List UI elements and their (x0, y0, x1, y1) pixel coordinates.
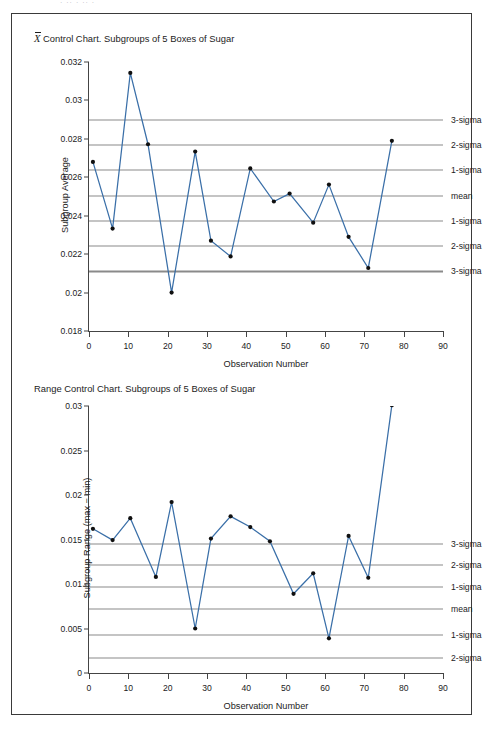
xbar-y-tick-label: 0.022 (60, 249, 82, 259)
figure-page: · ·· · ·· · X Control Chart. Subgroups o… (0, 0, 484, 729)
xbar-chart-title: X Control Chart. Subgroups of 5 Boxes of… (34, 33, 234, 44)
xbar-control-limit-label: 1-sigma (451, 216, 482, 226)
range-y-tick-label: 0.025 (60, 446, 82, 456)
range-x-tick-mark (89, 673, 90, 679)
range-chart-title: Range Control Chart. Subgroups of 5 Boxe… (34, 383, 255, 394)
xbar-control-chart-panel: X Control Chart. Subgroups of 5 Boxes of… (12, 14, 473, 366)
range-x-tick-mark (286, 673, 287, 679)
range-control-chart-panel: Range Control Chart. Subgroups of 5 Boxe… (12, 366, 473, 716)
xbar-plot-area: Subgroup Average Observation Number 0.01… (88, 62, 443, 332)
range-data-point (311, 571, 315, 575)
xbar-data-point (193, 149, 197, 153)
range-data-point (229, 514, 233, 518)
range-x-tick-label: 20 (163, 683, 173, 693)
xbar-data-point (390, 139, 394, 143)
xbar-control-limit-label: 2-sigma (451, 140, 482, 150)
xbar-data-point (128, 71, 132, 75)
range-series-line (93, 405, 392, 638)
xbar-control-limit-label: 3-sigma (451, 266, 482, 276)
xbar-y-tick-label: 0.028 (60, 134, 82, 144)
xbar-control-limit-label: 1-sigma (451, 165, 482, 175)
xbar-x-tick-mark (89, 331, 90, 337)
range-x-tick-label: 50 (281, 683, 291, 693)
range-x-tick-mark (168, 673, 169, 679)
xbar-control-limit-label: 2-sigma (451, 241, 482, 251)
range-x-tick-mark (443, 673, 444, 679)
x-bar-symbol: X (34, 33, 40, 44)
range-control-limit-label: 1-sigma (451, 582, 482, 592)
range-plot-area: Subgroup Range (max − min) Observation N… (88, 406, 443, 674)
xbar-x-tick-mark (128, 331, 129, 337)
range-data-point (209, 537, 213, 541)
range-data-point (291, 592, 295, 596)
range-x-tick-mark (364, 673, 365, 679)
figure-border: X Control Chart. Subgroups of 5 Boxes of… (11, 13, 472, 715)
range-x-tick-label: 10 (124, 683, 134, 693)
range-data-point (193, 626, 197, 630)
range-y-tick-label: 0.015 (60, 535, 82, 545)
xbar-y-tick-label: 0.03 (65, 95, 82, 105)
xbar-data-point (146, 142, 150, 146)
xbar-data-point (170, 290, 174, 294)
range-data-point (248, 525, 252, 529)
range-y-tick-label: 0.02 (65, 490, 82, 500)
xbar-data-series (89, 62, 443, 331)
xbar-y-tick-label: 0.026 (60, 172, 82, 182)
range-data-point (390, 403, 394, 407)
range-data-point (91, 527, 95, 531)
xbar-x-tick-mark (443, 331, 444, 337)
range-x-tick-label: 40 (242, 683, 252, 693)
range-data-point (268, 539, 272, 543)
xbar-x-tick-label: 80 (399, 341, 409, 351)
xbar-control-limit-label: 3-sigma (451, 115, 482, 125)
range-y-tick-label: 0.005 (60, 624, 82, 634)
range-data-point (327, 636, 331, 640)
xbar-y-tick-label: 0.032 (60, 57, 82, 67)
range-control-limit-label: 3-sigma (451, 539, 482, 549)
xbar-data-point (272, 199, 276, 203)
range-y-tick-label: 0.03 (65, 401, 82, 411)
range-x-axis-title: Observation Number (224, 701, 309, 711)
xbar-y-tick-label: 0.018 (60, 326, 82, 336)
range-x-tick-label: 80 (399, 683, 409, 693)
range-x-tick-mark (246, 673, 247, 679)
xbar-x-tick-label: 70 (360, 341, 370, 351)
xbar-x-tick-mark (325, 331, 326, 337)
xbar-x-tick-label: 0 (87, 341, 92, 351)
range-control-limit-label: 1-sigma (451, 630, 482, 640)
xbar-data-point (91, 160, 95, 164)
xbar-data-point (311, 221, 315, 225)
xbar-x-tick-label: 90 (438, 341, 448, 351)
xbar-x-tick-label: 30 (202, 341, 212, 351)
range-control-limit-label: mean (451, 604, 473, 614)
xbar-y-tick-label: 0.02 (65, 288, 82, 298)
xbar-data-point (366, 266, 370, 270)
xbar-data-point (229, 254, 233, 258)
range-x-tick-label: 60 (320, 683, 330, 693)
xbar-y-tick-label: 0.024 (60, 211, 82, 221)
xbar-data-point (111, 226, 115, 230)
xbar-data-point (248, 166, 252, 170)
range-x-tick-mark (128, 673, 129, 679)
range-x-tick-mark (207, 673, 208, 679)
page-top-cropped-text: · ·· · ·· · (0, 0, 484, 6)
range-y-tick-label: 0.01 (65, 579, 82, 589)
xbar-x-tick-mark (286, 331, 287, 337)
range-x-tick-label: 90 (438, 683, 448, 693)
xbar-x-tick-mark (404, 331, 405, 337)
range-data-point (111, 538, 115, 542)
range-x-tick-label: 0 (87, 683, 92, 693)
xbar-x-tick-mark (168, 331, 169, 337)
range-data-point (347, 534, 351, 538)
range-data-point (170, 500, 174, 504)
range-data-point (366, 576, 370, 580)
range-data-point (128, 516, 132, 520)
xbar-data-point (288, 192, 292, 196)
xbar-y-axis-title: Subgroup Average (60, 157, 70, 233)
xbar-x-tick-label: 60 (320, 341, 330, 351)
range-data-point (154, 575, 158, 579)
xbar-x-tick-label: 20 (163, 341, 173, 351)
range-control-limit-label: 2-sigma (451, 653, 482, 663)
xbar-x-tick-label: 50 (281, 341, 291, 351)
xbar-x-tick-label: 40 (242, 341, 252, 351)
